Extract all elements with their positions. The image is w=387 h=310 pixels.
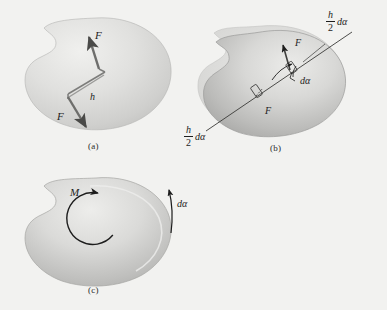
angle-label-b: dα [300,75,310,86]
caption-b: (b) [270,143,281,153]
body-shape-b-rotated [199,26,349,142]
displacement-suffix-top-b: dα [337,16,347,27]
displacement-label-top-b: h 2 dα [326,10,347,33]
fraction-numerator-top-b: h [326,10,335,20]
displacement-label-bottom-b: h 2 dα [184,125,205,148]
force-label-bottom-b: F [265,105,271,116]
body-shape-c [25,178,171,286]
rotation-label-c: dα [177,198,187,209]
displacement-suffix-bottom-b: dα [195,131,205,142]
fraction-denominator-bottom-b: 2 [184,138,193,148]
panel-b [198,26,352,142]
caption-a: (a) [88,141,99,151]
force-label-top-b: F [295,37,301,48]
moment-label-c: M [70,186,79,198]
fraction-bottom-b: h 2 [184,125,193,148]
fraction-top-b: h 2 [326,10,335,33]
caption-c: (c) [88,285,99,295]
force-label-top-a: F [95,29,102,41]
fraction-denominator-top-b: 2 [326,23,335,33]
fraction-numerator-bottom-b: h [184,125,193,135]
distance-label-a: h [90,91,95,102]
panel-c [25,178,172,286]
force-label-bottom-a: F [57,110,64,122]
couple-figure [0,0,387,310]
